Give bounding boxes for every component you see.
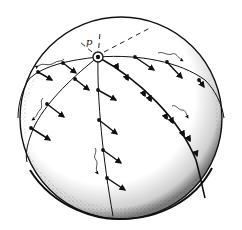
sphere-diagram: p (0, 0, 242, 230)
tangent-vector-arrow (150, 99, 151, 101)
tangent-vector-arrow (172, 121, 173, 123)
pole-label: p (86, 36, 93, 47)
tangent-vector-arrow (183, 134, 184, 136)
tangent-vector-arrow (166, 117, 167, 119)
tangent-vector-arrow (189, 139, 190, 141)
tangent-vector-arrow (127, 78, 128, 80)
pole-p (93, 52, 103, 62)
tangent-vector-arrow (117, 67, 118, 69)
tangent-vector-arrow (196, 153, 197, 156)
tangent-vector-arrow (144, 94, 145, 96)
